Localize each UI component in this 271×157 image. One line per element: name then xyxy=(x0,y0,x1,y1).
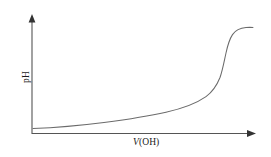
plot-area xyxy=(0,0,271,157)
x-axis-arrowhead xyxy=(247,130,256,137)
titration-curve-figure: V(OH) pH xyxy=(0,0,271,157)
y-axis-arrowhead xyxy=(29,14,36,23)
ph-titration-curve xyxy=(33,27,253,128)
x-axis-label-rest: (OH) xyxy=(139,137,159,147)
x-axis-label: V(OH) xyxy=(133,137,159,147)
y-axis-label: pH xyxy=(21,64,31,90)
